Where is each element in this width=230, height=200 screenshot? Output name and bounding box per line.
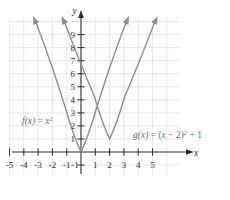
x-tick-label: 3 [122, 160, 127, 170]
x-tick-label: 1 [93, 160, 98, 170]
x-tick-label: -1 [63, 160, 71, 170]
x-tick-label: 5 [150, 160, 155, 170]
x-axis-label: x [193, 148, 199, 158]
x-tick-label: 2 [107, 160, 112, 170]
coordinate-plane-svg: -5 -4 -3 -2 -1 1 2 3 4 5 -1 1 2 3 4 5 6 … [0, 0, 230, 200]
y-tick-label: 7 [71, 56, 76, 66]
y-tick-label: 6 [71, 69, 76, 79]
x-tick-label: -3 [34, 160, 42, 170]
y-tick-label: 4 [71, 95, 76, 105]
x-tick-label: -5 [6, 160, 14, 170]
y-tick-label: 5 [71, 82, 76, 92]
x-tick-label: -2 [49, 160, 57, 170]
parabola-graph-figure: -5 -4 -3 -2 -1 1 2 3 4 5 -1 1 2 3 4 5 6 … [0, 0, 230, 200]
function-label-g: g(x) = (x − 2)2 + 1 [133, 129, 202, 142]
y-tick-label: 3 [71, 108, 76, 118]
y-tick-label: -1 [71, 160, 79, 170]
function-label-f: f(x) = x2 [22, 115, 54, 128]
x-tick-label: -4 [20, 160, 28, 170]
x-tick-label: 4 [136, 160, 141, 170]
y-axis-label: y [71, 6, 77, 16]
